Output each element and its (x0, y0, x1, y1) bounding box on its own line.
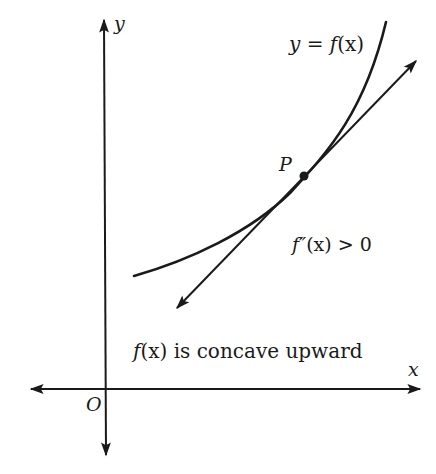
concavity-diagram: y y = f(x) P f″(x) > 0 f(x) is concave u… (0, 0, 436, 474)
tangent-point-dot (300, 172, 309, 181)
tangent-line (177, 61, 416, 308)
y-axis-label: y (113, 12, 125, 34)
x-axis-label: x (408, 358, 419, 380)
concavity-caption: f(x) is concave upward (131, 339, 363, 363)
curve-label: y = f(x) (288, 32, 364, 56)
point-p-label: P (278, 153, 293, 175)
origin-label: O (86, 393, 102, 415)
second-derivative-condition: f″(x) > 0 (290, 233, 372, 255)
